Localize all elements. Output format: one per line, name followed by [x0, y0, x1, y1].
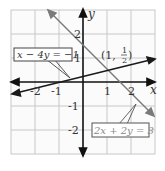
x-tick-neg2: -2 [30, 85, 41, 98]
point-prefix: (1, [101, 49, 116, 62]
y-axis-label: y [87, 7, 95, 21]
x-axis-label: x [150, 83, 157, 97]
x-tick-2: 2 [128, 85, 135, 98]
x-tick-1: 1 [104, 85, 111, 98]
point-suffix: ) [128, 49, 132, 62]
eq1-label: x − 4y = −1 [17, 49, 79, 60]
coordinate-plane: -2 -1 1 2 2 1 -1 -2 x y (1, 1 2 ) x − 4y… [0, 0, 165, 171]
point-denominator: 2 [122, 56, 127, 65]
y-tick-2: 2 [74, 28, 81, 41]
eq2-label: 2x + 2y = 3 [93, 125, 154, 136]
y-axis-arrow-down-icon [80, 148, 87, 156]
y-tick-neg1: -1 [68, 100, 79, 113]
point-numerator: 1 [122, 46, 127, 55]
x-tick-neg1: -1 [51, 85, 62, 98]
y-tick-neg2: -2 [68, 124, 79, 137]
